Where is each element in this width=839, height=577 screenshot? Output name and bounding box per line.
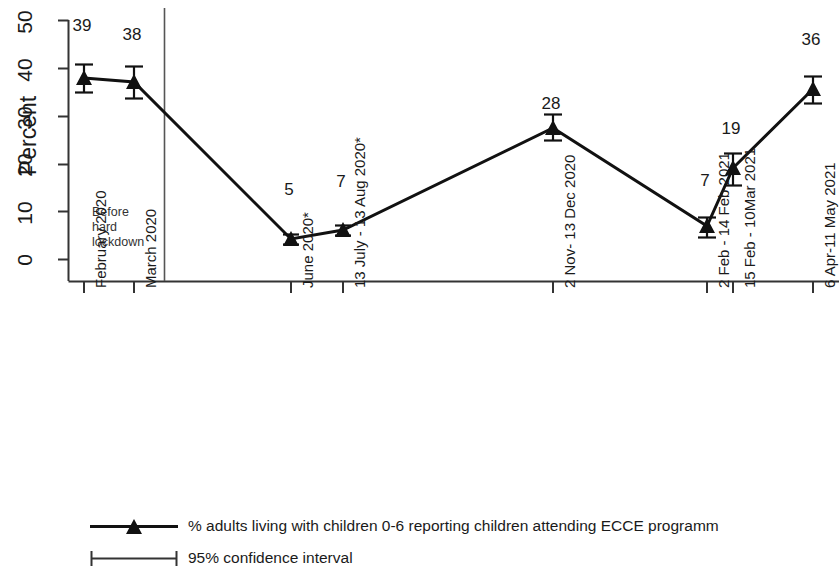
- data-label-7: 36: [791, 30, 831, 50]
- legend-marker-line-with-triangle: [88, 515, 180, 537]
- legend-label-series: % adults living with children 0-6 report…: [188, 517, 719, 535]
- data-point-marker-4: [545, 120, 561, 135]
- chart-figure: Percent 0 10 20 30 40 50: [0, 0, 839, 577]
- x-tick-label-4: 2 Nov- 13 Dec 2020: [561, 155, 578, 288]
- x-tick-label-2: June 2020*: [299, 212, 316, 288]
- data-label-0: 39: [62, 16, 102, 36]
- legend: % adults living with children 0-6 report…: [0, 505, 839, 577]
- data-point-marker-7: [805, 81, 821, 96]
- error-bars: [75, 64, 822, 245]
- data-label-6: 19: [711, 119, 751, 139]
- x-tick-label-3: 13 July - 13 Aug 2020*: [351, 137, 368, 288]
- x-tick-label-1: March 2020: [142, 209, 159, 288]
- x-tick-label-0: February 2020: [92, 190, 109, 288]
- data-label-4: 28: [531, 94, 571, 114]
- x-tick-label-7: 6 Apr-11 May 2021: [821, 162, 838, 288]
- x-tick-label-5: 2 Feb - 14 Feb 2021: [715, 152, 732, 288]
- data-label-2: 5: [269, 180, 309, 200]
- series-line: [84, 78, 813, 239]
- legend-marker-error-bar: [88, 547, 180, 569]
- legend-label-ci: 95% confidence interval: [188, 549, 353, 567]
- plot-area: [0, 0, 839, 300]
- data-label-1: 38: [112, 25, 152, 45]
- x-tick-label-6: 15 Feb - 10Mar 2021: [741, 148, 758, 288]
- data-point-marker-5: [699, 218, 715, 233]
